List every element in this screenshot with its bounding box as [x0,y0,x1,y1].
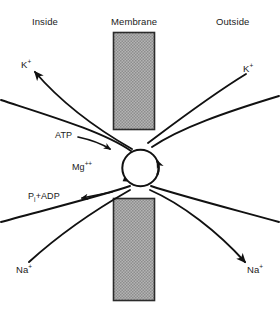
magnesium-charge: ++ [85,160,92,167]
products-adp-suffix: +ADP [36,191,60,201]
diagram-canvas [0,0,280,323]
label-atp: ATP [55,131,72,140]
pump-diagram-figure: Inside Membrane Outside K+ K+ Na+ Na+ AT… [0,0,280,323]
pump-carrier-circle [122,150,158,186]
potassium-channel-wall-outside [152,96,279,147]
potassium-inside-charge: + [27,58,31,65]
ion-label-sodium-outside: Na+ [247,265,263,275]
atp-input-arrow [78,137,110,149]
potassium-channel-wall-inside [1,100,131,151]
sodium-inside-charge: + [28,263,32,270]
label-products-pi-adp: Pi+ADP [28,192,60,201]
ion-label-potassium-inside: K+ [21,60,31,70]
potassium-outside-curve [148,74,246,143]
sodium-channel-wall-outside [151,186,279,222]
sodium-inside-element: Na [16,264,28,275]
column-header-inside: Inside [32,17,58,27]
sodium-outside-charge: + [259,263,263,270]
magnesium-element: Mg [72,162,85,172]
label-magnesium: Mg++ [72,163,92,172]
sodium-outside-element: Na [247,264,259,275]
ion-label-sodium-inside: Na+ [16,265,32,275]
potassium-outside-charge: + [249,62,253,69]
sodium-outside-curve [150,190,245,262]
column-header-outside: Outside [216,17,249,27]
products-output-arrow [82,192,112,198]
membrane-block-lower [114,199,155,301]
membrane-block-upper [114,33,155,130]
sodium-channel-wall-inside [1,186,130,222]
ion-label-potassium-outside: K+ [243,64,253,74]
column-header-membrane: Membrane [111,17,157,27]
